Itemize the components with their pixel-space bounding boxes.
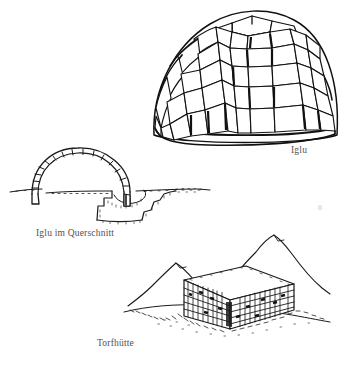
turf-hut-icon <box>118 232 342 344</box>
igloo-cross-section-icon <box>8 148 212 230</box>
figure-iglu-querschnitt <box>8 148 212 230</box>
caption-iglu: Iglu <box>291 146 307 156</box>
illustration-page: Iglu <box>0 0 342 366</box>
caption-torfhuette: Torfhütte <box>97 339 134 349</box>
figure-iglu <box>148 4 342 146</box>
caption-iglu-querschnitt: Iglu im Querschnitt <box>36 229 114 239</box>
igloo-dome-icon <box>148 4 342 146</box>
figure-torfhuette <box>118 232 342 344</box>
scan-speck-artifact <box>318 205 322 210</box>
